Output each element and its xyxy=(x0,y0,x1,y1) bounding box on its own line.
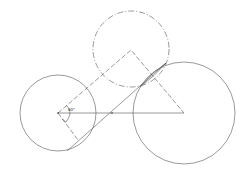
dashed-perpendicular xyxy=(58,113,78,140)
right-angle-mark xyxy=(62,119,68,122)
top-circle xyxy=(93,11,169,87)
dashed-triangle xyxy=(58,50,184,113)
center-point xyxy=(57,112,59,114)
tangent-line xyxy=(67,63,166,151)
geometry-diagram: 60° xyxy=(0,0,249,178)
angle-label: 60° xyxy=(68,107,75,112)
intersection-point xyxy=(111,112,113,114)
